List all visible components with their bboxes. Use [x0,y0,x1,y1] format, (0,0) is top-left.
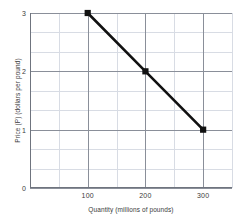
plot-area [30,13,232,188]
x-axis-tick-labels: 100200300 [30,192,232,204]
x-tick-label: 200 [139,192,151,199]
data-point-marker [200,127,206,133]
gridline-horizontal [30,188,232,189]
data-series-layer [30,13,232,188]
data-point-marker [85,10,91,16]
x-tick-label: 100 [82,192,94,199]
gridline-horizontal-major [30,188,232,189]
x-tick-label: 300 [197,192,209,199]
gridline-vertical [232,13,233,188]
chart-container: 0123 100200300 Price (P) (dollars per po… [0,0,250,224]
x-axis-title: Quantity (millions of pounds) [30,206,232,213]
data-point-marker [142,68,148,74]
y-axis-title: Price (P) (dollars per pound) [12,13,24,188]
